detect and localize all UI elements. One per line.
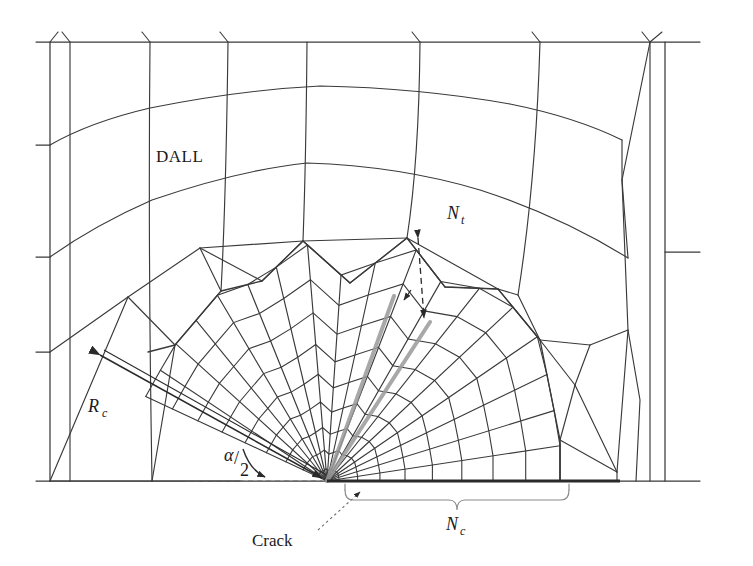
- alpha-label-slash: /: [234, 448, 239, 468]
- rc-label-subscript: c: [102, 406, 108, 420]
- crack-mesh-diagram: DALL N t N c R c α / 2 Crack: [0, 0, 753, 566]
- dall-label: DALL: [156, 147, 203, 166]
- rc-label-symbol: R: [87, 396, 99, 416]
- nc-label-symbol: N: [445, 514, 459, 534]
- nc-label-subscript: c: [460, 524, 466, 538]
- alpha-label-denominator: 2: [240, 460, 249, 480]
- alpha-label-symbol: α: [224, 445, 234, 465]
- crack-label: Crack: [252, 531, 293, 550]
- nt-label-symbol: N: [446, 203, 460, 223]
